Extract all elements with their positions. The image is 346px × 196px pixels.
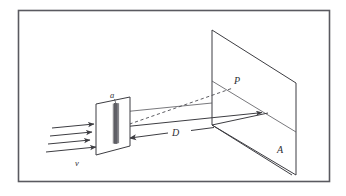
slit-aperture xyxy=(114,104,117,144)
slit-plate-group xyxy=(96,97,130,155)
optics-diagram-svg: D a v P A xyxy=(0,0,346,196)
wave-speed-label: v xyxy=(75,158,79,168)
distance-label: D xyxy=(171,127,180,138)
screen-A-label: A xyxy=(276,144,284,155)
slit-width-label: a xyxy=(110,90,114,100)
point-P-label: P xyxy=(233,75,240,86)
figure-container: D a v P A xyxy=(0,0,346,196)
